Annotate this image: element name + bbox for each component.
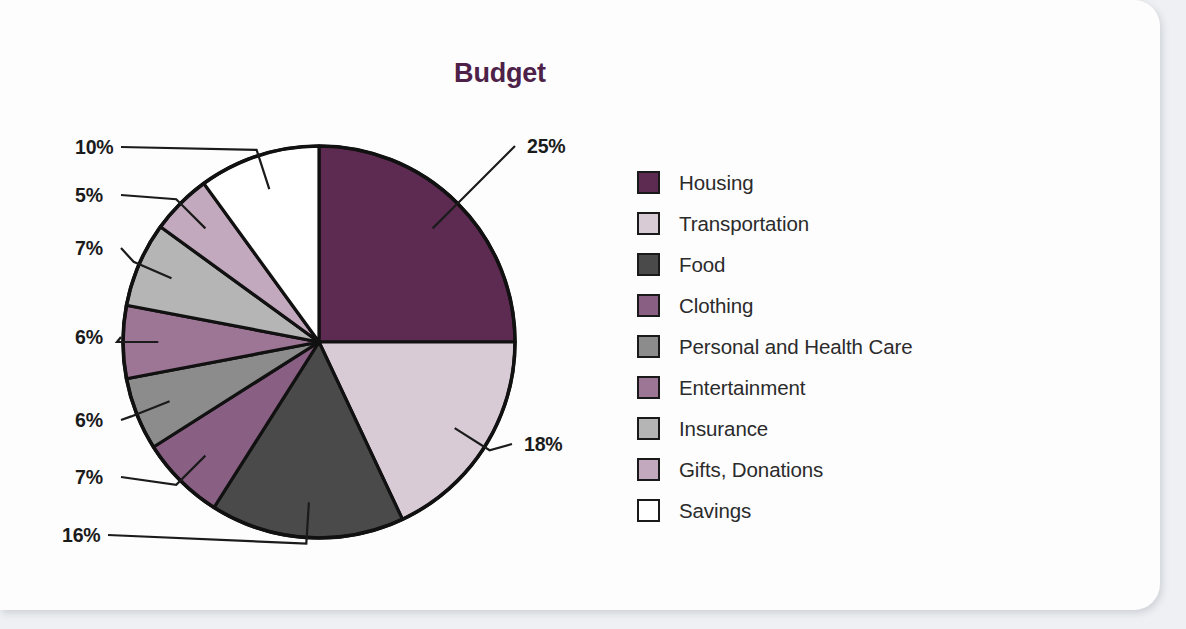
pie-value-label: 5% xyxy=(75,184,103,207)
legend-item[interactable]: Gifts, Donations xyxy=(637,449,1067,490)
legend-item[interactable]: Clothing xyxy=(637,285,1067,326)
legend-item[interactable]: Transportation xyxy=(637,203,1067,244)
legend-swatch-icon xyxy=(637,499,660,522)
legend-item[interactable]: Food xyxy=(637,244,1067,285)
legend-item-label: Personal and Health Care xyxy=(679,335,913,359)
legend-item[interactable]: Housing xyxy=(637,162,1067,203)
legend-item-label: Entertainment xyxy=(679,376,805,400)
legend-swatch-icon xyxy=(637,212,660,235)
legend-swatch-icon xyxy=(637,171,660,194)
legend-item-label: Insurance xyxy=(679,417,768,441)
legend-swatch-icon xyxy=(637,294,660,317)
legend-item-label: Transportation xyxy=(679,212,809,236)
pie-value-label: 25% xyxy=(527,135,565,158)
legend-item[interactable]: Entertainment xyxy=(637,367,1067,408)
pie-value-label: 7% xyxy=(75,237,103,260)
pie-value-label: 18% xyxy=(524,433,562,456)
legend-item-label: Clothing xyxy=(679,294,753,318)
legend-item-label: Savings xyxy=(679,499,751,523)
legend-swatch-icon xyxy=(637,335,660,358)
pie-slice[interactable] xyxy=(319,146,515,342)
pie-value-label: 10% xyxy=(75,136,113,159)
screenshot-root: Budget 25%18%16%7%6%6%7%5%10% HousingTra… xyxy=(0,0,1186,629)
legend-item-label: Gifts, Donations xyxy=(679,458,823,482)
pie-value-label: 6% xyxy=(75,409,103,432)
legend-swatch-icon xyxy=(637,458,660,481)
legend-swatch-icon xyxy=(637,253,660,276)
legend-item[interactable]: Savings xyxy=(637,490,1067,531)
chart-legend: HousingTransportationFoodClothingPersona… xyxy=(637,162,1067,531)
legend-item[interactable]: Personal and Health Care xyxy=(637,326,1067,367)
pie-value-label: 6% xyxy=(75,326,103,349)
legend-swatch-icon xyxy=(637,417,660,440)
legend-item-label: Housing xyxy=(679,171,754,195)
legend-swatch-icon xyxy=(637,376,660,399)
legend-item-label: Food xyxy=(679,253,725,277)
pie-value-label: 16% xyxy=(62,524,100,547)
legend-item[interactable]: Insurance xyxy=(637,408,1067,449)
pie-value-label: 7% xyxy=(75,466,103,489)
